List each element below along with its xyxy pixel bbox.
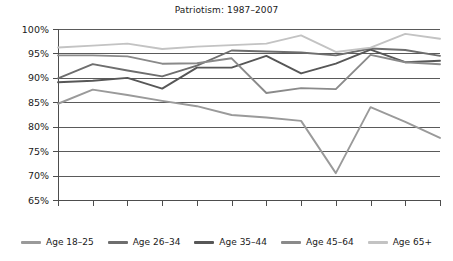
- chart-legend: Age 18–25Age 26–34Age 35–44Age 45–64Age …: [0, 232, 453, 252]
- legend-item[interactable]: Age 45–64: [281, 237, 354, 247]
- legend-label: Age 45–64: [306, 237, 354, 247]
- series-line-age-18-25: [58, 90, 440, 174]
- y-axis-tick-label: 75%: [28, 146, 49, 157]
- legend-swatch-icon: [281, 241, 301, 244]
- legend-swatch-icon: [368, 241, 388, 244]
- legend-label: Age 35–44: [219, 237, 267, 247]
- legend-label: Age 65+: [393, 237, 432, 247]
- legend-item[interactable]: Age 18–25: [21, 237, 94, 247]
- legend-label: Age 26–34: [133, 237, 181, 247]
- legend-item[interactable]: Age 35–44: [194, 237, 267, 247]
- legend-swatch-icon: [21, 241, 41, 244]
- y-axis-tick-label: 100%: [22, 24, 49, 35]
- legend-item[interactable]: Age 26–34: [108, 237, 181, 247]
- y-axis-tick-label: 90%: [28, 72, 49, 83]
- plot-area: 100%95%90%85%80%75%70%65% 19871988198919…: [0, 22, 453, 207]
- y-axis-tick-label: 65%: [28, 195, 49, 206]
- y-axis-tick-labels: 100%95%90%85%80%75%70%65%: [22, 24, 58, 206]
- legend-item[interactable]: Age 65+: [368, 237, 432, 247]
- line-chart-svg: 100%95%90%85%80%75%70%65% 19871988198919…: [0, 22, 453, 207]
- legend-swatch-icon: [108, 241, 128, 244]
- legend-swatch-icon: [194, 241, 214, 244]
- chart-container: Patriotism: 1987–2007 100%95%90%85%80%75…: [0, 0, 453, 261]
- series-line-age-45-64: [58, 55, 440, 93]
- legend-label: Age 18–25: [46, 237, 94, 247]
- y-axis-tick-label: 95%: [28, 48, 49, 59]
- y-axis-tick-label: 70%: [28, 170, 49, 181]
- y-axis-tick-label: 80%: [28, 121, 49, 132]
- series-lines: [58, 34, 440, 173]
- y-axis-tick-label: 85%: [28, 97, 49, 108]
- chart-title: Patriotism: 1987–2007: [0, 5, 453, 15]
